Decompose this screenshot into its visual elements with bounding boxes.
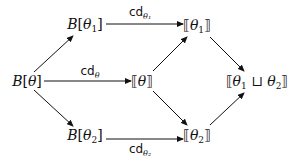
label-base: cd	[80, 64, 94, 78]
bracket-open: ⟦	[183, 17, 190, 33]
label-base: cd	[129, 5, 143, 19]
node-sem-theta: ⟦θ⟧	[131, 74, 153, 88]
node-b-theta: B[θ]	[12, 74, 42, 88]
node-sem-theta2: ⟦θ2⟧	[183, 128, 211, 145]
label-subscript: θ₁	[143, 12, 151, 21]
node-b-theta1: B[θ1]	[67, 17, 102, 34]
bracket-open: ⟦	[183, 127, 190, 143]
node-sem-join: ⟦θ1 ⊔ θ2⟧	[226, 74, 289, 91]
arrow-btheta-to-btheta2	[34, 90, 73, 126]
node-var: θ	[28, 73, 36, 89]
bracket-open: ⟦	[131, 73, 138, 89]
bracket-close: ]	[97, 127, 102, 143]
join-operator: ⊔	[247, 73, 268, 89]
arrow-sem-theta-to-theta2	[153, 91, 187, 125]
label-subscript: θ₂	[143, 149, 151, 158]
arrow-theta2-to-join	[210, 93, 244, 125]
node-b-theta2: B[θ2]	[67, 128, 102, 145]
bracket-close: ⟧	[146, 73, 153, 89]
node-var: θ	[83, 16, 91, 32]
bracket-close: ⟧	[204, 17, 211, 33]
bracket-close: ⟧	[204, 127, 211, 143]
node-prefix: B	[67, 16, 77, 32]
bracket-open: ⟦	[226, 73, 233, 89]
arrow-theta1-to-join	[210, 37, 244, 71]
label-subscript: θ	[95, 71, 100, 80]
edge-label-cd-theta1: cdθ₁	[129, 6, 151, 21]
arrow-sem-theta-to-theta1	[153, 37, 187, 71]
node-var: θ	[83, 127, 91, 143]
commutative-diagram: B[θ] B[θ1] B[θ2] ⟦θ⟧ ⟦θ1⟧ ⟦θ2⟧ ⟦θ1 ⊔ θ2⟧…	[0, 0, 293, 162]
bracket-close: ⟧	[281, 73, 288, 89]
node-sem-theta1: ⟦θ1⟧	[183, 18, 211, 35]
bracket-close: ]	[36, 73, 41, 89]
node-prefix: B	[12, 73, 22, 89]
bracket-close: ]	[97, 16, 102, 32]
node-var: θ	[267, 73, 275, 89]
edge-label-cd-theta: cdθ	[80, 65, 99, 80]
edge-label-cd-theta2: cdθ₂	[129, 143, 151, 158]
node-prefix: B	[67, 127, 77, 143]
label-base: cd	[129, 142, 143, 156]
arrow-btheta-to-btheta1	[34, 36, 73, 72]
